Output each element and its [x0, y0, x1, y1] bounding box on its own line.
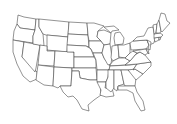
- map-svg: [0, 0, 177, 124]
- state-pennsylvania: [130, 40, 149, 50]
- state-massachusetts: [154, 33, 163, 38]
- state-kansas: [74, 57, 96, 68]
- state-florida: [118, 86, 145, 111]
- state-maine: [159, 13, 170, 32]
- state-new-mexico: [53, 67, 72, 88]
- state-wyoming: [47, 35, 68, 52]
- state-north-dakota: [68, 22, 88, 35]
- us-outline-map: [0, 0, 177, 124]
- state-montana: [39, 19, 69, 37]
- states-group: [13, 13, 170, 111]
- state-arizona: [36, 65, 54, 86]
- state-colorado: [54, 51, 74, 68]
